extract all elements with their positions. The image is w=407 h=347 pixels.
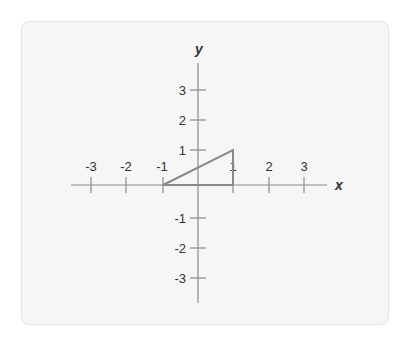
x-tick-labels: -3 -2 -1 1 2 3 [85, 159, 307, 174]
y-tick-label: 2 [179, 113, 186, 128]
x-tick-label: -3 [85, 159, 97, 174]
y-axis-label: y [194, 41, 204, 57]
x-tick-label: -1 [156, 159, 168, 174]
y-tick-label: -3 [174, 271, 186, 286]
y-tick-label: 3 [179, 83, 186, 98]
y-tick-label: -2 [174, 241, 186, 256]
x-tick-label: 2 [265, 159, 272, 174]
y-tick-label: 1 [179, 143, 186, 158]
x-tick-label: -2 [120, 159, 132, 174]
x-axis-label: x [334, 177, 344, 193]
x-tick-label: 3 [300, 159, 307, 174]
coordinate-plane: -3 -2 -1 1 2 3 3 2 1 -1 -2 -3 x y [0, 0, 407, 347]
y-tick-label: -1 [174, 211, 186, 226]
